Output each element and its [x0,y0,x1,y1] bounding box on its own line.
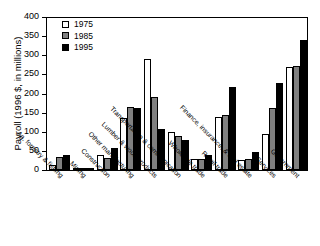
x-axis-label: Mining [69,160,88,179]
bar-chart: Payroll (1996 $, in millions) 0501001502… [0,0,320,246]
x-axis-label: Other manufacturing [87,130,136,179]
x-axis-label: Ag, forestry & fishing [16,130,65,179]
x-axis-label: Services [254,156,277,179]
x-axis-labels: Ag, forestry & fishingMiningConstruction… [0,0,320,246]
